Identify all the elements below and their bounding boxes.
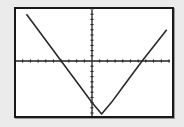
graph-plot <box>0 0 184 127</box>
function-curve <box>27 14 167 114</box>
axes <box>16 10 170 116</box>
